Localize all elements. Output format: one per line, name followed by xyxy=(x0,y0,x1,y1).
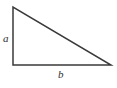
triangle-outline xyxy=(13,7,111,65)
leg-label-a: a xyxy=(3,33,9,44)
leg-label-b: b xyxy=(58,69,64,80)
triangle-figure: a b xyxy=(0,0,117,88)
